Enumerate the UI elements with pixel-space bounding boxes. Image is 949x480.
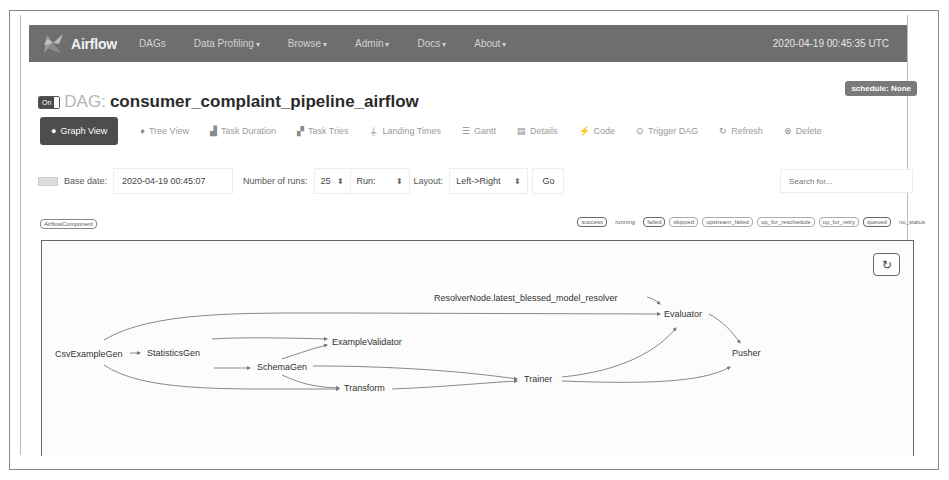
nav-label: Browse <box>288 38 321 49</box>
refresh-icon: ↻ <box>719 126 727 136</box>
brand-name: Airflow <box>71 36 117 52</box>
legend-success: success <box>577 217 607 227</box>
tab-task-tries[interactable]: ▞Task Tries <box>297 126 349 136</box>
nav-label: About <box>474 38 500 49</box>
bar-chart-icon: ▟ <box>210 126 217 136</box>
component-tag: AirflowComponent <box>40 219 97 229</box>
nav-label: Data Profiling <box>194 38 254 49</box>
tab-label: Landing Times <box>382 126 441 136</box>
tab-task-duration[interactable]: ▟Task Duration <box>210 126 276 136</box>
run-select[interactable]: Run:⬍ <box>351 168 410 194</box>
graph-node-csvexamplegen[interactable]: CsvExampleGen <box>55 349 123 359</box>
dag-prefix: DAG: <box>64 92 106 112</box>
graph-node-pusher[interactable]: Pusher <box>732 348 761 358</box>
legend-up-for-reschedule: up_for_reschedule <box>757 217 815 227</box>
layout-select[interactable]: Left->Right⬍ <box>449 168 528 194</box>
tab-graph-view[interactable]: ●Graph View <box>40 117 118 145</box>
go-button[interactable]: Go <box>532 168 564 194</box>
tab-delete[interactable]: ⊗Delete <box>784 126 822 136</box>
graph-refresh-button[interactable]: ↻ <box>873 253 900 276</box>
graph-node-resolver[interactable]: ResolverNode.latest_blessed_model_resolv… <box>434 293 618 303</box>
tab-label: Refresh <box>731 126 763 136</box>
chevron-down-icon: ▾ <box>323 40 327 49</box>
dag-header: On DAG: consumer_complaint_pipeline_airf… <box>38 92 419 112</box>
tab-tree-view[interactable]: ♦Tree View <box>140 126 189 136</box>
tab-landing-times[interactable]: ⏚Landing Times <box>369 125 441 138</box>
task-search-input[interactable] <box>780 169 913 193</box>
gantt-icon: ☰ <box>462 126 470 136</box>
run-label: Run: <box>357 176 376 186</box>
legend-up-for-retry: up_for_retry <box>819 217 859 227</box>
graph-node-statisticsgen[interactable]: StatisticsGen <box>147 348 200 358</box>
tab-label: Trigger DAG <box>648 126 698 136</box>
tab-label: Graph View <box>60 126 107 136</box>
select-value: Left->Right <box>456 176 500 186</box>
nav-docs[interactable]: Docs▾ <box>417 38 446 49</box>
tab-label: Tree View <box>149 126 189 136</box>
nav-data-profiling[interactable]: Data Profiling▾ <box>194 38 260 49</box>
nav-browse[interactable]: Browse▾ <box>288 38 327 49</box>
tab-refresh[interactable]: ↻Refresh <box>719 126 763 136</box>
nav-label: DAGs <box>139 38 166 49</box>
play-circle-icon: ⊙ <box>636 126 644 136</box>
bolt-icon: ⚡ <box>579 126 590 136</box>
nav-label: Docs <box>417 38 440 49</box>
tab-details[interactable]: ▤Details <box>517 126 558 136</box>
graph-node-evaluator[interactable]: Evaluator <box>664 309 702 319</box>
num-runs-select[interactable]: 25⬍ <box>314 168 351 194</box>
dag-pause-toggle[interactable]: On <box>38 96 60 109</box>
legend-queued: queued <box>863 217 891 227</box>
select-value: 25 <box>321 176 331 186</box>
nav-about[interactable]: About▾ <box>474 38 506 49</box>
legend-failed: failed <box>643 217 665 227</box>
tab-trigger-dag[interactable]: ⊙Trigger DAG <box>636 126 698 136</box>
toggle-label: On <box>39 97 54 108</box>
circle-icon: ● <box>51 126 56 136</box>
chevron-down-icon: ▾ <box>385 40 389 49</box>
base-date-label: Base date: <box>64 176 107 186</box>
schedule-badge: schedule: None <box>845 81 917 96</box>
tab-label: Task Duration <box>221 126 276 136</box>
num-runs-label: Number of runs: <box>243 176 308 186</box>
legend-upstream-failed: upstream_failed <box>702 217 753 227</box>
base-date-input[interactable]: 2020-04-19 00:45:07 <box>113 168 233 194</box>
nav-label: Admin <box>355 38 383 49</box>
select-spinner-icon: ⬍ <box>337 177 344 186</box>
dag-view-tabs: ●Graph View ♦Tree View ▟Task Duration ▞T… <box>40 117 843 145</box>
tab-code[interactable]: ⚡Code <box>579 126 616 136</box>
graph-node-trainer[interactable]: Trainer <box>524 374 552 384</box>
toggle-knob <box>54 97 59 108</box>
top-navbar: Airflow DAGs Data Profiling▾ Browse▾ Adm… <box>29 25 907 62</box>
tab-gantt[interactable]: ☰Gantt <box>462 126 496 136</box>
layout-label: Layout: <box>414 176 444 186</box>
tab-label: Task Tries <box>308 126 349 136</box>
tries-icon: ▞ <box>297 126 304 136</box>
chevron-down-icon: ▾ <box>442 40 446 49</box>
state-legend: success running failed skipped upstream_… <box>573 217 929 227</box>
tab-label: Delete <box>796 126 822 136</box>
chevron-down-icon: ▾ <box>502 40 506 49</box>
nav-dags[interactable]: DAGs <box>139 38 166 49</box>
tree-icon: ♦ <box>140 126 145 136</box>
graph-node-schemagen[interactable]: SchemaGen <box>257 362 307 372</box>
brand[interactable]: Airflow <box>41 31 117 57</box>
select-spinner-icon: ⬍ <box>514 177 521 186</box>
legend-no-status: no_status <box>895 217 929 227</box>
tab-label: Code <box>594 126 616 136</box>
chevron-down-icon: ▾ <box>256 40 260 49</box>
dag-graph-canvas[interactable]: CsvExampleGen StatisticsGen ExampleValid… <box>41 240 914 456</box>
page-title: consumer_complaint_pipeline_airflow <box>110 92 419 112</box>
delete-icon: ⊗ <box>784 126 792 136</box>
graph-node-transform[interactable]: Transform <box>344 383 385 393</box>
calendar-icon[interactable] <box>38 177 58 186</box>
graph-controls-form: Base date: 2020-04-19 00:45:07 Number of… <box>38 168 564 194</box>
graph-node-examplevalidator[interactable]: ExampleValidator <box>332 337 402 347</box>
tab-label: Details <box>530 126 558 136</box>
select-spinner-icon: ⬍ <box>396 177 403 186</box>
refresh-icon: ↻ <box>882 258 892 272</box>
airflow-logo-icon <box>41 31 67 57</box>
nav-admin[interactable]: Admin▾ <box>355 38 389 49</box>
legend-skipped: skipped <box>669 217 698 227</box>
details-icon: ▤ <box>517 126 526 136</box>
landing-icon: ⏚ <box>369 125 378 138</box>
